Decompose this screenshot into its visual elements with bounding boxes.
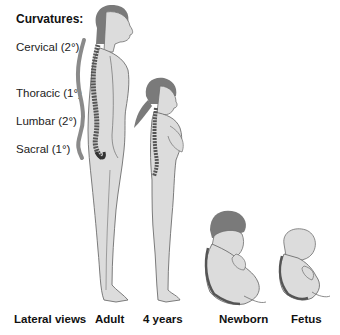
label-newborn: Newborn <box>219 313 268 325</box>
child-figure <box>134 78 183 302</box>
illustration <box>0 0 340 335</box>
label-lateral-views: Lateral views <box>14 313 86 325</box>
label-adult: Adult <box>95 313 124 325</box>
newborn-figure <box>206 211 266 305</box>
label-fetus: Fetus <box>291 313 322 325</box>
label-4-years: 4 years <box>143 313 183 325</box>
adult-figure <box>88 5 133 302</box>
fetus-figure <box>280 229 331 300</box>
curvature-line <box>78 40 84 158</box>
